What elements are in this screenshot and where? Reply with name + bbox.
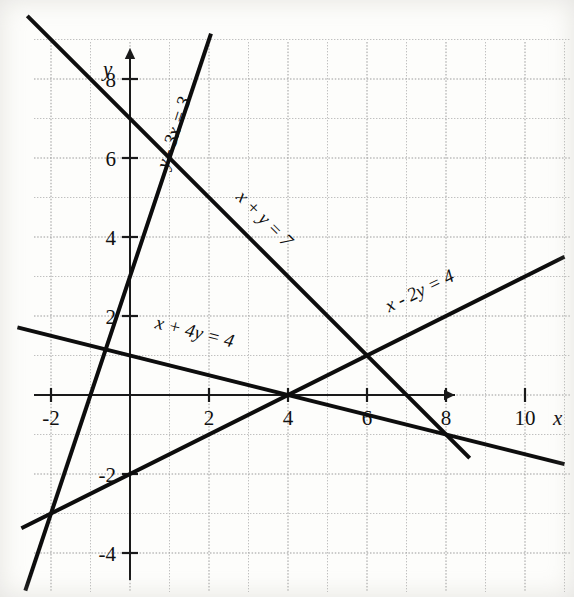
data-line-layer (17, 16, 564, 591)
x-tick-label: 8 (441, 406, 452, 430)
y-axis-label: y (101, 57, 113, 81)
y-tick-label: 6 (106, 147, 117, 171)
data-line (21, 257, 564, 529)
y-tick-label: -4 (99, 542, 117, 566)
x-tick-label: 6 (362, 406, 373, 430)
equation-label-layer: y - 3x = 3x + y = 7x - 2y = 4x + 4y = 4 (151, 94, 458, 352)
y-axis-arrowhead (125, 48, 135, 59)
x-tick-label: 10 (515, 406, 536, 430)
equation-label: y - 3x = 3 (151, 94, 194, 173)
equation-label: x + y = 7 (232, 185, 299, 252)
y-tick-label: 2 (106, 305, 117, 329)
x-tick-label: -2 (42, 406, 60, 430)
x-tick-label: 2 (204, 406, 215, 430)
y-tick-label: -2 (99, 463, 117, 487)
x-axis-label: x (552, 406, 563, 430)
coordinate-graph-figure: -2246810-4-22468 y - 3x = 3x + y = 7x - … (0, 0, 574, 597)
y-tick-label: 4 (106, 226, 117, 250)
equation-label: x + 4y = 4 (152, 311, 237, 351)
plot-canvas: -2246810-4-22468 y - 3x = 3x + y = 7x - … (0, 0, 574, 597)
x-tick-label: 4 (283, 406, 294, 430)
